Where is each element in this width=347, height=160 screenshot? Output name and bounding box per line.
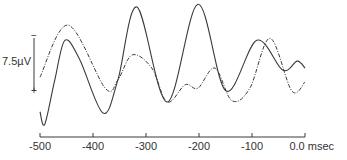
x-tick-label: -500 — [29, 140, 51, 152]
x-tick-label: -300 — [135, 140, 157, 152]
x-tick-label: -200 — [188, 140, 210, 152]
x-tick-label: 0.0 msec — [289, 140, 334, 152]
scale-bar-label: 7.5µV — [2, 55, 31, 67]
x-axis-ticks — [40, 133, 305, 137]
negative-polarity-marker: − — [31, 31, 37, 41]
x-tick-label: -100 — [241, 140, 263, 152]
solid-trace-line — [40, 4, 305, 125]
dashed-trace-line — [40, 25, 305, 102]
erp-waveform-chart — [0, 0, 347, 160]
positive-polarity-marker: + — [31, 86, 37, 96]
x-unit-label: msec — [305, 140, 334, 152]
x-tick-label: -400 — [82, 140, 104, 152]
